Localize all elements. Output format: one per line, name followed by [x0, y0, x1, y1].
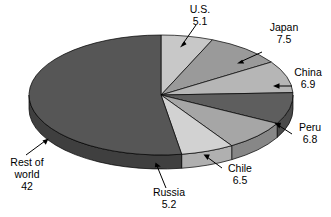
pie-chart-figure: U.S. 5.1Japan 7.5China 6.9Peru 6.8Chile … [0, 0, 331, 217]
label-chile-name: Chile [228, 162, 252, 174]
label-chile-value: 6.5 [233, 174, 248, 186]
label-us-value: 5.1 [193, 15, 208, 27]
label-china-name: China [294, 66, 322, 78]
label-japan-value: 7.5 [277, 33, 292, 45]
label-rest-name-2: world [13, 168, 39, 180]
pie-chart-svg: U.S. 5.1Japan 7.5China 6.9Peru 6.8Chile … [0, 0, 331, 217]
label-us: U.S. 5.1 [190, 3, 210, 27]
label-russia-value: 5.2 [162, 198, 177, 210]
label-rest-value: 42 [21, 180, 33, 192]
label-japan-name: Japan [270, 21, 299, 33]
label-china-value: 6.9 [301, 78, 316, 90]
label-russia-name: Russia [153, 186, 185, 198]
pie-slices: U.S. 5.1Japan 7.5China 6.9Peru 6.8Chile … [29, 35, 293, 155]
label-rest-name-1: Rest of [10, 156, 43, 168]
label-peru-value: 6.8 [303, 133, 318, 145]
label-peru-name: Peru [299, 121, 321, 133]
label-us-name: U.S. [190, 3, 210, 15]
